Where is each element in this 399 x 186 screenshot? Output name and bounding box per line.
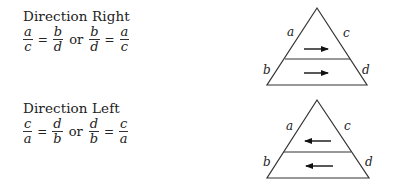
label-b: b bbox=[263, 155, 271, 169]
label-a: a bbox=[286, 119, 293, 133]
triangle-diagrams: a c b d a c b d bbox=[0, 0, 399, 186]
label-d: d bbox=[362, 63, 370, 77]
label-c: c bbox=[343, 26, 350, 40]
label-d: d bbox=[365, 155, 373, 169]
triangle-direction-right: a c b d bbox=[263, 8, 370, 85]
label-c: c bbox=[344, 119, 351, 133]
label-a: a bbox=[287, 25, 294, 39]
label-b: b bbox=[263, 63, 271, 77]
triangle-direction-left: a c b d bbox=[263, 100, 373, 178]
